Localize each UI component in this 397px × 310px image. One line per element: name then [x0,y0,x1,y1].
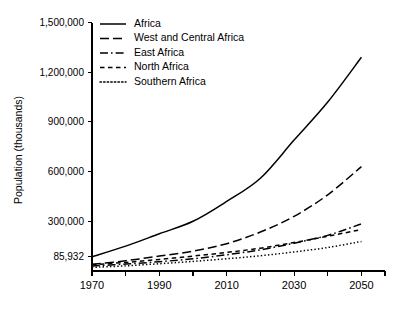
y-tick-label: 1,200,000 [40,67,85,78]
chart-legend: AfricaWest and Central AfricaEast Africa… [100,17,244,87]
y-tick-label: 1,500,000 [40,17,85,28]
legend-label: Africa [134,17,161,29]
x-axis-ticks [92,271,385,276]
legend-label: Southern Africa [134,75,206,87]
x-axis-tick-labels: 19701990201020302050 [80,279,374,291]
legend-label: East Africa [134,46,184,58]
series-line-west-and-central-africa [92,167,361,265]
legend-label: North Africa [134,60,189,72]
y-tick-label: 300,000 [48,216,85,227]
y-axis-title-text: Population (thousands) [12,96,24,204]
legend-label: West and Central Africa [134,31,244,43]
chart-canvas: Population (thousands) 85,932300,000600,… [0,0,397,310]
series-line-southern-africa [92,242,361,268]
x-tick-label: 1990 [147,279,171,291]
x-tick-label: 1970 [80,279,104,291]
x-tick-label: 2010 [214,279,238,291]
y-axis-tick-labels: 85,932300,000600,000900,0001,200,0001,50… [40,17,85,262]
y-tick-label: 85,932 [53,251,84,262]
x-tick-label: 2030 [282,279,306,291]
y-tick-label: 600,000 [48,166,85,177]
data-series-group [92,57,361,267]
y-axis-title: Population (thousands) [12,96,24,204]
x-tick-label: 2050 [349,279,373,291]
population-line-chart: Population (thousands) 85,932300,000600,… [0,0,397,310]
series-line-africa [92,57,361,256]
y-axis-ticks [88,23,92,257]
y-tick-label: 900,000 [48,116,85,127]
